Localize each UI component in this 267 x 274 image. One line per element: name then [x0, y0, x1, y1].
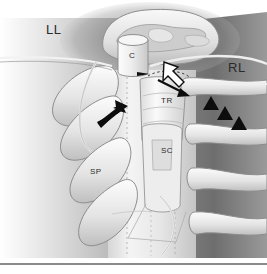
label-cartilage: C: [129, 51, 135, 60]
spinal-cord: [152, 140, 172, 170]
label-right-lung: RL: [228, 60, 246, 75]
figure-caption-area: [0, 258, 267, 274]
right-rib-1: [181, 78, 267, 96]
cartilage-cylinder-top: [118, 35, 148, 46]
vessel-right-mid: [186, 83, 267, 84]
label-trachea: TR: [161, 96, 173, 105]
label-left-lung: LL: [46, 22, 61, 37]
horizontal-divider: [0, 263, 267, 265]
figure-root: LL RL C TR SC SP: [0, 0, 267, 274]
label-spinous-process: SP: [90, 167, 102, 176]
anatomical-illustration: [0, 0, 267, 258]
label-spinal-cord: SC: [161, 146, 173, 155]
